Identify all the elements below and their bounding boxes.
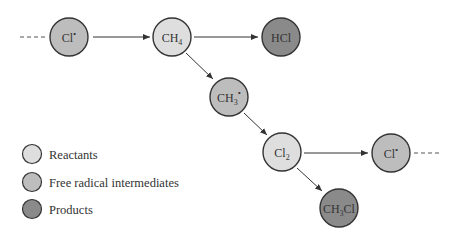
svg-text:Reactants: Reactants <box>49 148 98 162</box>
node-ch3-radical: CH3• <box>210 78 248 116</box>
legend-swatch-reactant <box>23 145 42 164</box>
svg-text:CH3Cl: CH3Cl <box>323 202 355 218</box>
radical-chain-diagram: Cl• CH4 HCl CH3• Cl2 Cl• CH3Cl Reactants… <box>0 0 459 240</box>
node-hcl: HCl <box>262 18 300 56</box>
legend-swatch-product <box>23 200 42 219</box>
arrow-ch4-to-ch3 <box>186 53 213 79</box>
svg-text:CH3•: CH3• <box>217 88 241 107</box>
node-cl-radical-2: Cl• <box>372 134 410 172</box>
node-cl-radical-1: Cl• <box>50 18 88 56</box>
legend: Reactants Free radical intermediates Pro… <box>23 145 179 219</box>
svg-text:Free radical intermediates: Free radical intermediates <box>49 176 179 190</box>
legend-item-products: Products <box>23 200 93 219</box>
svg-text:Products: Products <box>49 203 93 217</box>
legend-item-reactants: Reactants <box>23 145 98 164</box>
arrow-ch3-to-cl2 <box>244 113 267 135</box>
legend-swatch-intermediate <box>23 173 42 192</box>
arrow-cl2-to-ch3cl <box>297 168 322 191</box>
node-cl2: Cl2 <box>263 133 301 171</box>
svg-text:HCl: HCl <box>271 31 292 45</box>
node-ch3cl: CH3Cl <box>320 189 358 227</box>
legend-item-intermediates: Free radical intermediates <box>23 173 179 192</box>
node-ch4: CH4 <box>153 18 191 56</box>
